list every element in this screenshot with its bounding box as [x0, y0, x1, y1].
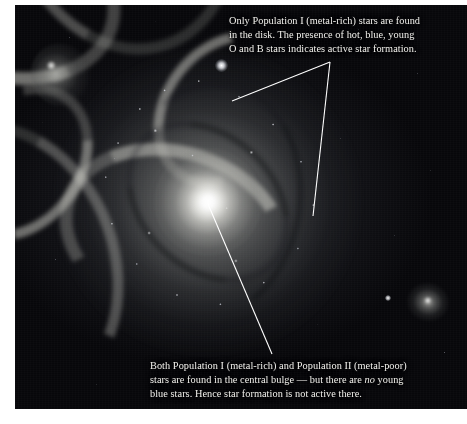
disk-annotation-line-1: Only Population I (metal-rich) stars are…	[229, 14, 420, 28]
galaxy-photograph-plate	[15, 5, 467, 409]
astronomy-figure: Only Population I (metal-rich) stars are…	[0, 0, 467, 424]
bulge-annotation-line-2: stars are found in the central bulge — b…	[150, 373, 407, 387]
disk-annotation-caption: Only Population I (metal-rich) stars are…	[229, 14, 420, 57]
disk-annotation-line-2: in the disk. The presence of hot, blue, …	[229, 28, 420, 42]
bulge-annotation-line-1: Both Population I (metal-rich) and Popul…	[150, 359, 407, 373]
main-spiral-galaxy	[53, 47, 363, 357]
disk-annotation-line-3: O and B stars indicates active star form…	[229, 42, 420, 56]
bright-field-star	[215, 59, 228, 72]
bulge-annotation-caption: Both Population I (metal-rich) and Popul…	[150, 359, 407, 402]
bulge-annotation-emphasis: no	[365, 374, 375, 385]
galaxy-central-bulge	[154, 148, 262, 256]
bulge-annotation-line-3: blue stars. Hence star formation is not …	[150, 387, 407, 401]
foreground-star	[385, 295, 391, 301]
